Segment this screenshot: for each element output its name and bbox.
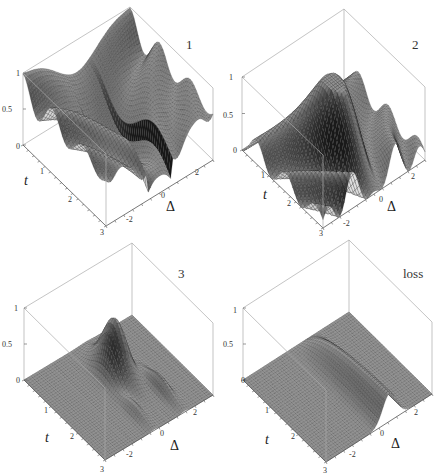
- t-axis-label: t: [265, 433, 269, 447]
- t-axis-label: t: [263, 188, 267, 202]
- delta-tick-neg2: -2: [126, 451, 133, 459]
- delta-tick-2: 2: [195, 169, 199, 177]
- panel-label: loss: [403, 267, 423, 280]
- t-tick-2: 2: [291, 433, 295, 441]
- surface-plot-3-canvas: [0, 237, 223, 475]
- delta-axis-label: Δ: [391, 437, 400, 451]
- delta-axis-label: Δ: [170, 439, 179, 453]
- t-tick-2: 2: [287, 200, 291, 208]
- t-axis-label: t: [24, 174, 28, 188]
- t-tick-2: 2: [70, 433, 74, 441]
- t-tick-1: 1: [44, 407, 48, 415]
- surface-plot-panel-loss: loss 1 0.5 0 1 2 3 t -2 0 2 Δ: [223, 237, 446, 475]
- delta-tick-2: 2: [193, 409, 197, 417]
- z-tick-0-5: 0.5: [223, 112, 233, 120]
- delta-axis-label: Δ: [166, 200, 175, 214]
- z-tick-1: 1: [233, 307, 237, 315]
- z-tick-0: 0: [16, 377, 20, 385]
- t-axis-label: t: [45, 431, 49, 445]
- figure: 1 1 0.5 0 1 2 3 t -2 0 2 Δ 2 1 0.5 0 1 2…: [0, 0, 446, 475]
- surface-plot-panel-2: 2 1 0.5 0 1 2 3 t -2 0 2 Δ: [223, 0, 446, 237]
- z-tick-0-5: 0.5: [2, 106, 12, 114]
- delta-tick-neg2: -2: [349, 451, 356, 459]
- delta-tick-0: 0: [160, 430, 164, 438]
- delta-tick-0: 0: [380, 430, 384, 438]
- panel-label: 3: [178, 267, 185, 280]
- panel-label: 1: [186, 38, 193, 51]
- delta-axis-label: Δ: [387, 200, 396, 214]
- z-tick-0-5: 0.5: [2, 341, 12, 349]
- delta-tick-neg2: -2: [343, 220, 350, 228]
- t-tick-3: 3: [323, 467, 327, 475]
- delta-tick-2: 2: [414, 409, 418, 417]
- t-tick-3: 3: [100, 466, 104, 474]
- t-tick-1: 1: [261, 172, 265, 180]
- z-tick-0: 0: [16, 143, 20, 151]
- t-tick-2: 2: [68, 196, 72, 204]
- delta-tick-2: 2: [411, 173, 415, 181]
- z-tick-0: 0: [233, 147, 237, 155]
- z-tick-1: 1: [16, 70, 20, 78]
- t-tick-3: 3: [100, 229, 104, 237]
- panel-label: 2: [412, 38, 419, 51]
- delta-tick-neg2: -2: [126, 216, 133, 224]
- surface-plot-panel-1: 1 1 0.5 0 1 2 3 t -2 0 2 Δ: [0, 0, 223, 237]
- z-tick-1: 1: [229, 74, 233, 82]
- z-tick-0-5: 0.5: [223, 341, 233, 349]
- delta-tick-0: 0: [161, 192, 165, 200]
- delta-tick-0: 0: [379, 196, 383, 204]
- z-tick-0: 0: [241, 377, 245, 385]
- z-tick-1: 1: [14, 305, 18, 313]
- t-tick-1: 1: [40, 168, 44, 176]
- surface-plot-panel-3: 3 1 0.5 0 1 2 3 t -2 0 2 Δ: [0, 237, 223, 475]
- surface-plot-1-canvas: [0, 0, 223, 237]
- t-tick-1: 1: [265, 407, 269, 415]
- surface-plot-2-canvas: [223, 0, 446, 237]
